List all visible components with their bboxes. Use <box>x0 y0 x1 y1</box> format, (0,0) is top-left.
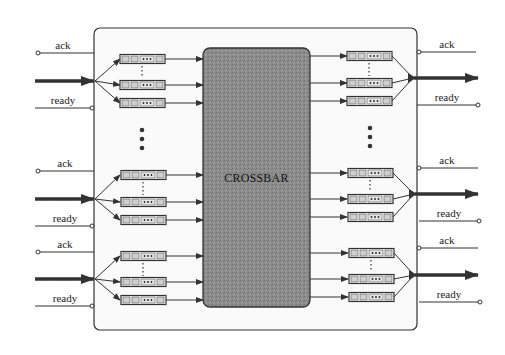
input-queue <box>120 55 165 64</box>
ack-label: ack <box>57 238 73 250</box>
input-queue <box>120 99 165 108</box>
ready-label: ready <box>435 91 460 103</box>
output-queue <box>349 249 394 258</box>
crossbar-block: CROSSBAR <box>203 48 310 307</box>
ack-label: ack <box>55 39 71 51</box>
output-queue <box>349 293 394 302</box>
ack-label: ack <box>57 157 73 169</box>
output-queue <box>347 79 392 88</box>
ready-label: ready <box>53 212 78 224</box>
crossbar-label: CROSSBAR <box>224 171 288 185</box>
input-queue <box>121 252 166 261</box>
ready-label: ready <box>437 207 462 219</box>
output-queue <box>348 213 393 222</box>
input-queue <box>120 81 165 90</box>
input-queue <box>121 296 166 305</box>
output-queue <box>349 275 394 284</box>
output-queue <box>348 169 393 178</box>
input-queue <box>121 198 166 207</box>
input-queue <box>121 216 166 225</box>
output-queue <box>347 97 392 106</box>
ack-label: ack <box>439 234 455 246</box>
ready-label: ready <box>51 94 76 106</box>
output-queue <box>348 195 393 204</box>
ack-label: ack <box>439 154 455 166</box>
input-queue <box>121 278 166 287</box>
right-ellipsis <box>368 126 373 149</box>
left-ellipsis <box>140 128 145 151</box>
input-queue <box>121 171 166 180</box>
crossbar-diagram: CROSSBAR ack ready ack ready <box>0 0 505 355</box>
ack-label: ack <box>439 38 455 50</box>
ready-label: ready <box>53 292 78 304</box>
output-queue <box>347 52 392 61</box>
ready-label: ready <box>437 288 462 300</box>
